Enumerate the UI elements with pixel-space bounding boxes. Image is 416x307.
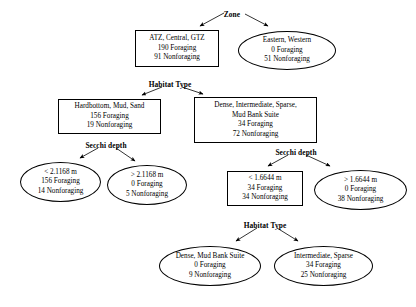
node-secchi-lt-2-1168-line-1: 156 Foraging	[41, 177, 80, 187]
node-secchi-lt-2-1168: < 2.1168 m156 Foraging14 Nonforaging	[20, 162, 101, 202]
edge-secchi-left-left	[80, 148, 98, 158]
edge-secchi-right-right	[306, 155, 330, 166]
node-dense-intermediate-sparse-mud-bank-suite-line-3: 72 Nonforaging	[233, 130, 279, 140]
node-intermediate-sparse-line-1: 34 Foraging	[306, 261, 341, 271]
edge-secchi-left-right	[116, 148, 135, 161]
node-secchi-gt-2-1168-line-2: 5 Nonforaging	[126, 190, 168, 200]
node-dense-intermediate-sparse-mud-bank-suite-line-1: Mud Bank Suite	[232, 111, 279, 121]
node-intermediate-sparse: Intermediate, Sparse34 Foraging25 Nonfor…	[274, 246, 373, 286]
node-eastern-western-line-1: 0 Foraging	[271, 46, 302, 56]
edge-habitat-bottom-right	[277, 228, 298, 241]
node-atz-central-gtz: ATZ, Central, GTZ190 Foraging91 Nonforag…	[135, 30, 219, 67]
split-secchi-depth-left: Secchi depth	[85, 141, 126, 150]
node-dense-intermediate-sparse-mud-bank-suite-line-0: Dense, Intermediate, Sparse,	[214, 101, 296, 111]
node-hardbottom-mud-sand-line-2: 19 Nonforaging	[87, 121, 133, 131]
node-hardbottom-mud-sand-line-1: 156 Foraging	[90, 112, 129, 122]
node-secchi-gt-1-6644-line-0: > 1.6644 m	[344, 176, 377, 186]
node-secchi-gt-1-6644-line-2: 38 Nonforaging	[338, 195, 384, 205]
node-secchi-lt-1-6644-line-0: < 1.6644 m	[248, 174, 281, 184]
edge-zone-right	[245, 14, 268, 26]
node-intermediate-sparse-line-2: 25 Nonforaging	[301, 271, 347, 281]
node-eastern-western: Eastern, Western0 Foraging51 Nonforaging	[238, 31, 336, 70]
node-intermediate-sparse-line-0: Intermediate, Sparse	[294, 252, 353, 262]
decision-tree-diagram: ATZ, Central, GTZ190 Foraging91 Nonforag…	[0, 0, 416, 307]
node-dense-mud-bank-suite-line-1: 0 Foraging	[194, 261, 225, 271]
node-dense-intermediate-sparse-mud-bank-suite-line-2: 34 Foraging	[238, 120, 273, 130]
split-zone: Zone	[224, 10, 240, 19]
node-dense-mud-bank-suite: Dense, Mud Bank Suite0 Foraging9 Nonfora…	[159, 246, 261, 286]
node-secchi-lt-1-6644-line-2: 34 Nonforaging	[242, 193, 288, 203]
edge-habitat-bottom-left	[236, 228, 257, 241]
split-habitat-type-bottom: Habitat Type	[244, 221, 287, 230]
node-secchi-lt-2-1168-line-0: < 2.1168 m	[44, 168, 77, 178]
node-eastern-western-line-0: Eastern, Western	[263, 36, 311, 46]
edge-zone-left	[200, 13, 224, 26]
node-secchi-gt-1-6644-line-1: 0 Foraging	[345, 185, 376, 195]
split-habitat-type-top: Habitat Type	[149, 80, 192, 89]
node-atz-central-gtz-line-0: ATZ, Central, GTZ	[149, 34, 205, 44]
node-secchi-gt-2-1168: > 2.1168 m0 Foraging5 Nonforaging	[107, 165, 187, 205]
edge-secchi-right-left	[268, 155, 288, 166]
node-dense-mud-bank-suite-line-2: 9 Nonforaging	[189, 271, 231, 281]
split-secchi-depth-right: Secchi depth	[275, 148, 316, 157]
node-atz-central-gtz-line-1: 190 Foraging	[158, 44, 197, 54]
node-secchi-lt-2-1168-line-2: 14 Nonforaging	[38, 187, 84, 197]
node-hardbottom-mud-sand-line-0: Hardbottom, Mud, Sand	[75, 102, 145, 112]
node-dense-mud-bank-suite-line-0: Dense, Mud Bank Suite	[176, 252, 245, 262]
node-secchi-gt-2-1168-line-1: 0 Foraging	[131, 180, 162, 190]
node-hardbottom-mud-sand: Hardbottom, Mud, Sand156 Foraging19 Nonf…	[58, 99, 161, 134]
node-dense-intermediate-sparse-mud-bank-suite: Dense, Intermediate, Sparse,Mud Bank Sui…	[194, 97, 317, 143]
node-secchi-lt-1-6644: < 1.6644 m34 Foraging34 Nonforaging	[227, 171, 303, 206]
node-secchi-gt-1-6644: > 1.6644 m0 Foraging38 Nonforaging	[314, 170, 407, 210]
node-atz-central-gtz-line-2: 91 Nonforaging	[154, 53, 200, 63]
node-secchi-lt-1-6644-line-1: 34 Foraging	[248, 184, 283, 194]
node-secchi-gt-2-1168-line-0: > 2.1168 m	[131, 171, 164, 181]
node-eastern-western-line-2: 51 Nonforaging	[264, 55, 310, 65]
